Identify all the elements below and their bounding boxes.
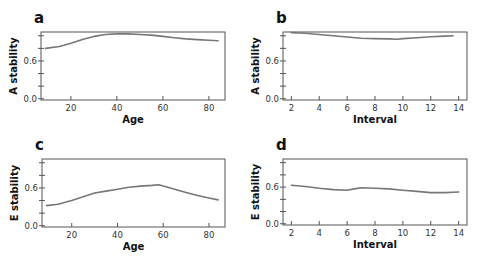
y-axis-label: E stability	[9, 164, 20, 221]
panel-d: d0.00.62468101214IntervalE stability	[250, 136, 467, 250]
x-tick-label: 4	[317, 228, 322, 238]
x-tick-label: 14	[453, 228, 464, 238]
x-tick-label: 10	[397, 228, 408, 238]
series-line	[46, 34, 219, 49]
series-line	[291, 33, 453, 40]
y-tick-label: 0.6	[265, 56, 279, 66]
figure: a0.00.620406080AgeA stability b0.00.6246…	[0, 0, 478, 267]
panel-letter: d	[276, 136, 287, 154]
y-axis-label: A stability	[8, 37, 19, 95]
x-axis-label: Age	[122, 114, 144, 125]
plot-frame	[283, 32, 467, 100]
x-tick-label: 20	[65, 103, 76, 113]
y-axis-label: E stability	[250, 163, 261, 220]
x-tick-label: 80	[204, 230, 215, 240]
x-tick-label: 6	[344, 103, 349, 113]
y-tick-label: 0.6	[23, 56, 37, 66]
x-tick-label: 2	[289, 103, 294, 113]
x-tick-label: 2	[289, 228, 294, 238]
panel-c: c0.00.620406080AgeE stability	[9, 136, 225, 252]
panel-letter: c	[35, 136, 44, 154]
x-axis-label: Interval	[353, 239, 397, 250]
x-axis-label: Interval	[353, 114, 397, 125]
x-tick-label: 20	[66, 230, 77, 240]
plot-frame	[42, 159, 225, 227]
x-tick-label: 8	[372, 228, 377, 238]
series-line	[291, 185, 458, 192]
y-tick-label: 0.0	[265, 94, 279, 104]
y-tick-label: 0.6	[265, 182, 279, 192]
x-tick-label: 4	[317, 103, 322, 113]
x-tick-label: 40	[112, 230, 123, 240]
y-tick-label: 0.0	[265, 219, 279, 229]
series-line	[47, 185, 219, 206]
x-tick-label: 80	[203, 103, 214, 113]
y-tick-label: 0.0	[23, 94, 37, 104]
panel-a: a0.00.620406080AgeA stability	[8, 9, 225, 125]
y-tick-label: 0.0	[24, 221, 38, 231]
x-tick-label: 6	[344, 228, 349, 238]
x-tick-label: 14	[453, 103, 464, 113]
x-tick-label: 12	[425, 228, 436, 238]
plot-frame	[41, 32, 225, 100]
panel-letter: b	[276, 9, 287, 27]
x-tick-label: 60	[158, 230, 169, 240]
x-tick-label: 12	[425, 103, 436, 113]
x-axis-label: Age	[123, 241, 145, 252]
y-axis-label: A stability	[250, 37, 261, 95]
x-tick-label: 8	[372, 103, 377, 113]
panel-letter: a	[34, 9, 44, 27]
panel-b: b0.00.62468101214IntervalA stability	[250, 9, 467, 125]
x-tick-label: 10	[397, 103, 408, 113]
x-tick-label: 40	[111, 103, 122, 113]
x-tick-label: 60	[157, 103, 168, 113]
y-tick-label: 0.6	[24, 183, 38, 193]
